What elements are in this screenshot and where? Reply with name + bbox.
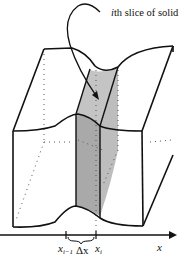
diagram-canvas: ith slice of solid xi−1 Δx xi x (0, 0, 185, 259)
top-face-edge (44, 46, 173, 70)
left-slant-edge (13, 49, 44, 131)
delta-x-brace (68, 237, 94, 244)
front-right-edge (142, 131, 143, 226)
right-slant-edge-top (142, 46, 173, 131)
delta-x-label: Δx (76, 244, 89, 256)
solid-slice-diagram: ith slice of solid xi−1 Δx xi x (0, 0, 185, 259)
annotation-label: ith slice of solid (111, 7, 179, 18)
tick-label-left: xi−1 (57, 242, 73, 256)
x-axis-arrowhead-icon (169, 231, 177, 239)
x-axis-label: x (156, 241, 162, 253)
front-bottom-curve (13, 206, 143, 227)
right-slant-edge-bottom (143, 155, 173, 226)
tick-label-right: xi (94, 242, 102, 256)
